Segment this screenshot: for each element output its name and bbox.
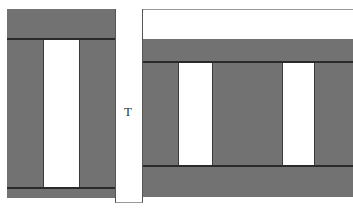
- right-slot-1-edge-right: [212, 63, 213, 166]
- right-slot-2-edge-right: [314, 63, 315, 166]
- left-bottom-divider: [7, 187, 115, 189]
- right-top-band: [143, 9, 353, 39]
- right-top-divider: [143, 61, 353, 63]
- left-slot-edge-right: [79, 40, 80, 187]
- right-slot-1-edge-left: [178, 63, 179, 166]
- right-slot-2: [283, 63, 315, 166]
- left-slot: [44, 40, 79, 187]
- left-slot-edge-left: [43, 40, 44, 187]
- right-slot-1: [179, 63, 212, 166]
- right-bottom-divider: [143, 165, 353, 167]
- center-label: T: [124, 104, 132, 120]
- right-slot-2-edge-left: [282, 63, 283, 166]
